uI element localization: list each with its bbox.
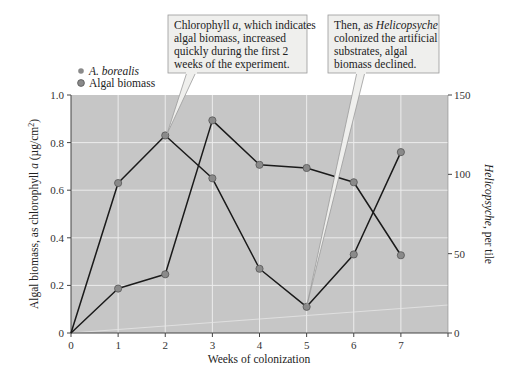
data-point-marker [256, 161, 263, 168]
legend-item-algal-biomass: Algal biomass [78, 77, 156, 90]
data-point-marker [397, 149, 404, 156]
data-point-marker [397, 252, 404, 259]
data-point-marker [303, 303, 310, 310]
data-point-marker [209, 175, 216, 182]
x-tick-label: 5 [304, 339, 310, 351]
y-tick-label: 0.4 [50, 232, 64, 244]
y-axis-title: Algal biomass, as chlorophyll a (µg/cm2) [27, 119, 41, 309]
y2-tick-label: 100 [454, 168, 471, 180]
y-tick-label: 0.8 [50, 137, 64, 149]
data-point-marker [256, 265, 263, 272]
x-tick-label: 1 [115, 339, 121, 351]
legend: A. borealis Algal biomass [78, 65, 156, 90]
y-tick-label: 0 [59, 327, 65, 339]
x-tick-label: 7 [398, 339, 404, 351]
x-tick-label: 0 [68, 339, 74, 351]
chart: 00.20.40.60.81.005010015001234567 A. bor… [0, 0, 511, 387]
y2-tick-label: 50 [454, 248, 466, 260]
data-point-marker [303, 164, 310, 171]
legend-marker-icon [78, 80, 85, 87]
legend-label: Algal biomass [89, 77, 156, 90]
data-point-marker [115, 285, 122, 292]
legend-label: A. borealis [88, 65, 140, 77]
y2-tick-label: 150 [454, 89, 471, 101]
x-tick-label: 4 [257, 339, 263, 351]
x-tick-label: 6 [351, 339, 357, 351]
x-tick-label: 2 [163, 339, 169, 351]
legend-item-a-borealis: A. borealis [78, 65, 139, 77]
y-tick-label: 0.6 [50, 184, 64, 196]
data-point-marker [115, 179, 122, 186]
y2-axis-title: Helicopsyche, per tile [482, 163, 495, 264]
data-point-marker [209, 117, 216, 124]
x-tick-label: 3 [210, 339, 216, 351]
legend-marker-icon [78, 68, 84, 74]
y-tick-label: 0.2 [50, 279, 64, 291]
plot-area [71, 95, 448, 333]
y-tick-label: 1.0 [50, 89, 64, 101]
y2-tick-label: 0 [454, 327, 460, 339]
data-point-marker [162, 271, 169, 278]
data-point-marker [350, 179, 357, 186]
data-point-marker [350, 251, 357, 258]
x-axis-title: Weeks of colonization [208, 353, 311, 365]
